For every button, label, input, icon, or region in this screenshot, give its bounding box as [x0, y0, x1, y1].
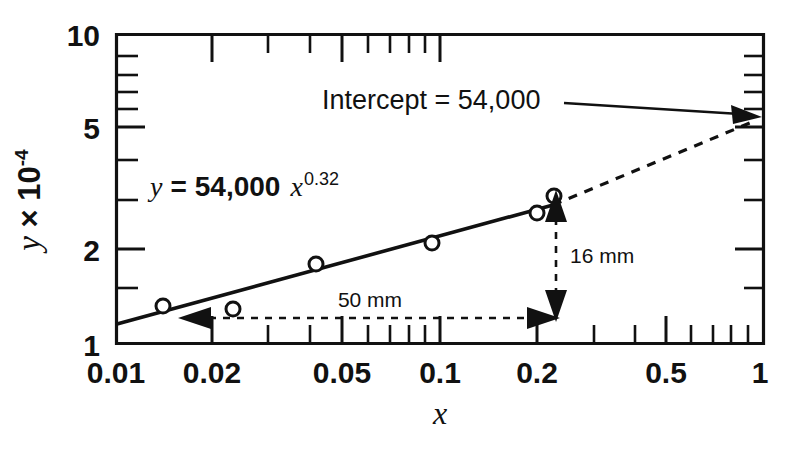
rise-label: 16 mm: [570, 244, 634, 267]
run-label: 50 mm: [338, 288, 402, 311]
data-point: [530, 206, 544, 220]
x-tick-label-0-05: 0.05: [313, 356, 371, 389]
intercept-leader-line: [564, 103, 740, 114]
log-log-scatter-chart: 10 5 2 1 y × 10-4: [0, 0, 787, 464]
y-axis-title-variable: y: [11, 236, 47, 254]
run-arrow-head-left-icon: [178, 307, 211, 329]
x-axis-tick-labels: 0.01 0.02 0.05 0.1 0.2 0.5 1: [87, 356, 769, 389]
data-point: [425, 236, 439, 250]
fit-equation-annotation: y=54,000x0.32: [147, 169, 339, 202]
equation-lhs: y: [147, 171, 163, 202]
x-tick-label-0-02: 0.02: [183, 356, 241, 389]
data-point: [226, 302, 240, 316]
equation-sign: =: [170, 171, 186, 202]
equation-variable: x: [289, 171, 303, 202]
y-axis-title: y × 10-4: [11, 149, 47, 254]
y-tick-label-10: 10: [67, 19, 100, 52]
regression-line: [117, 205, 553, 324]
figure-container: 10 5 2 1 y × 10-4: [0, 0, 787, 464]
x-tick-label-0-01: 0.01: [87, 356, 145, 389]
data-point: [309, 257, 323, 271]
y-axis-title-exponent: -4: [11, 149, 32, 166]
y-axis-tick-labels: 10 5 2 1: [67, 19, 100, 362]
y-tick-label-5: 5: [83, 112, 100, 145]
rise-annotation: 16 mm: [545, 190, 634, 322]
svg-text:y × 10-4: y × 10-4: [11, 149, 47, 254]
y-tick-label-2: 2: [83, 234, 100, 267]
y-axis-title-rest: × 10: [12, 166, 47, 236]
extrapolation-line: [553, 120, 757, 205]
intercept-annotation: Intercept = 54,000: [322, 85, 762, 124]
data-point: [156, 299, 170, 313]
x-tick-label-0-1: 0.1: [419, 356, 461, 389]
x-tick-label-0-2: 0.2: [516, 356, 558, 389]
equation-exponent: 0.32: [304, 169, 339, 189]
x-tick-label-1: 1: [752, 356, 769, 389]
x-tick-label-0-5: 0.5: [645, 356, 687, 389]
equation-coefficient: 54,000: [195, 171, 281, 202]
intercept-label: Intercept = 54,000: [322, 85, 540, 115]
x-axis-title: x: [432, 395, 447, 431]
svg-text:y=54,000x0.32: y=54,000x0.32: [147, 169, 339, 202]
